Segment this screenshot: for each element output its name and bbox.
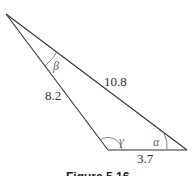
triangle — [6, 14, 187, 150]
side-label-bottom: 3.7 — [137, 151, 154, 166]
side-label-hypotenuse: 10.8 — [104, 74, 127, 89]
side-left — [6, 14, 108, 150]
figure-caption: Figure 5.16 — [66, 170, 130, 176]
angle-label-gamma: γ — [119, 134, 124, 148]
angle-label-beta: β — [52, 59, 59, 73]
side-hypotenuse — [6, 14, 187, 150]
angle-arc-alpha — [164, 133, 167, 150]
side-label-left: 8.2 — [45, 88, 61, 103]
triangle-diagram: β 8.2 10.8 γ α 3.7 Figure 5.16 — [0, 0, 196, 176]
angle-label-alpha: α — [153, 135, 160, 149]
